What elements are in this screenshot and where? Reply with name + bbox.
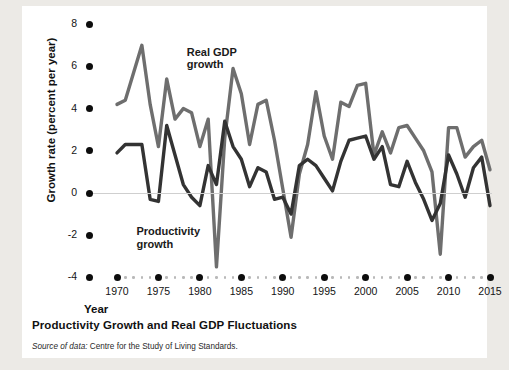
y-axis-tick-dot xyxy=(86,21,93,28)
x-axis-minor-dot xyxy=(356,276,359,279)
x-axis-minor-dot xyxy=(190,276,193,279)
x-axis-minor-dot xyxy=(298,276,301,279)
x-axis-minor-dot xyxy=(439,276,442,279)
x-axis-minor-dot xyxy=(472,276,475,279)
y-axis-tick-dot xyxy=(86,190,93,197)
x-axis-tick-label: 1985 xyxy=(221,285,261,297)
y-axis-tick-dot xyxy=(86,232,93,239)
x-axis-tick-label: 1980 xyxy=(180,285,220,297)
x-axis-tick-dot xyxy=(321,274,328,281)
x-axis-minor-dot xyxy=(398,276,401,279)
x-axis-tick-label: 2010 xyxy=(429,285,469,297)
x-axis-tick-dot xyxy=(487,274,494,281)
x-axis-minor-dot xyxy=(132,276,135,279)
x-axis-minor-dot xyxy=(480,276,483,279)
x-axis-minor-dot xyxy=(224,276,227,279)
y-axis-tick-dot xyxy=(86,105,93,112)
figure-card: 86420-2-41970197519801985199019952000200… xyxy=(22,6,487,358)
x-axis-tick-label: 1995 xyxy=(304,285,344,297)
x-axis-minor-dot xyxy=(389,276,392,279)
x-axis-tick-label: 1975 xyxy=(138,285,178,297)
x-axis-minor-dot xyxy=(182,276,185,279)
chart-lines xyxy=(22,6,487,306)
figure-source-prefix: Source of data: xyxy=(32,342,88,351)
x-axis-tick-dot xyxy=(445,274,452,281)
x-axis-tick-dot xyxy=(114,274,121,281)
y-axis-tick-dot xyxy=(86,147,93,154)
x-axis-minor-dot xyxy=(141,276,144,279)
annotation-real-gdp-growth: Real GDP growth xyxy=(187,46,237,71)
annotation-real-gdp-line2: growth xyxy=(187,58,237,71)
zero-reference-line xyxy=(89,193,492,194)
x-axis-minor-dot xyxy=(315,276,318,279)
x-axis-tick-label: 1970 xyxy=(97,285,137,297)
y-axis-tick-dot xyxy=(86,274,93,281)
annotation-productivity-line1: Productivity xyxy=(136,225,200,238)
x-axis-minor-dot xyxy=(422,276,425,279)
x-axis-minor-dot xyxy=(373,276,376,279)
x-axis-title: Year xyxy=(84,303,108,315)
x-axis-tick-label: 1990 xyxy=(263,285,303,297)
x-axis-minor-dot xyxy=(174,276,177,279)
chart-plot-area: 86420-2-41970197519801985199019952000200… xyxy=(22,6,487,306)
x-axis-tick-dot xyxy=(362,274,369,281)
x-axis-minor-dot xyxy=(124,276,127,279)
x-axis-minor-dot xyxy=(456,276,459,279)
x-axis-minor-dot xyxy=(248,276,251,279)
x-axis-tick-label: 2005 xyxy=(387,285,427,297)
x-axis-minor-dot xyxy=(290,276,293,279)
annotation-productivity-line2: growth xyxy=(136,238,200,251)
annotation-productivity-growth: Productivity growth xyxy=(136,225,200,250)
x-axis-minor-dot xyxy=(273,276,276,279)
x-axis-tick-label: 2015 xyxy=(470,285,509,297)
x-axis-minor-dot xyxy=(414,276,417,279)
x-axis-tick-dot xyxy=(238,274,245,281)
x-axis-tick-dot xyxy=(404,274,411,281)
figure-source-text: Centre for the Study of Living Standards… xyxy=(90,342,238,351)
figure-caption: Productivity Growth and Real GDP Fluctua… xyxy=(32,319,297,331)
x-axis-minor-dot xyxy=(431,276,434,279)
x-axis-tick-label: 2000 xyxy=(346,285,386,297)
x-axis-minor-dot xyxy=(257,276,260,279)
y-axis-title: Growth rate (percent per year) xyxy=(45,25,57,215)
x-axis-minor-dot xyxy=(215,276,218,279)
x-axis-tick-dot xyxy=(155,274,162,281)
annotation-real-gdp-line1: Real GDP xyxy=(187,46,237,59)
y-axis-tick-label: -2 xyxy=(51,228,77,240)
x-axis-minor-dot xyxy=(306,276,309,279)
figure-source: Source of data: Centre for the Study of … xyxy=(32,342,238,351)
x-axis-minor-dot xyxy=(165,276,168,279)
x-axis-minor-dot xyxy=(331,276,334,279)
y-axis-tick-label: -4 xyxy=(51,270,77,282)
x-axis-minor-dot xyxy=(340,276,343,279)
x-axis-minor-dot xyxy=(348,276,351,279)
y-axis-tick-dot xyxy=(86,63,93,70)
x-axis-minor-dot xyxy=(232,276,235,279)
